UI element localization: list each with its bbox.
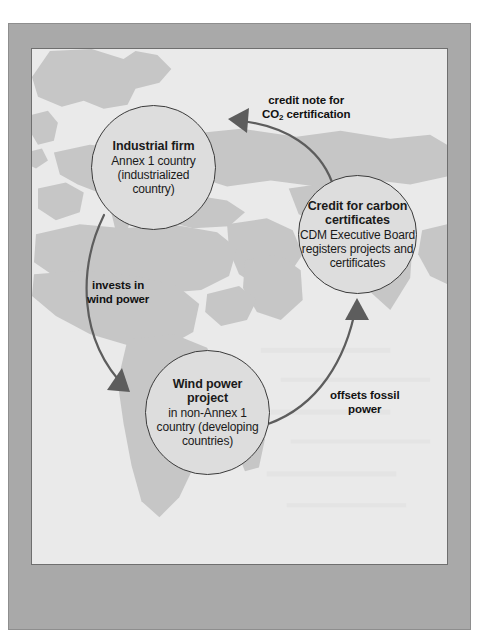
node-wind-power-project[interactable]: Wind power project in non-Annex 1 countr… <box>145 350 270 475</box>
edge-label-credit-note: credit note for CO2 certification <box>262 94 350 124</box>
node-credit-sub-line-2: registers projects and <box>300 242 415 256</box>
edge-label-invests-in-wind-power: invests in wind power <box>87 279 149 306</box>
diagram-stage: Industrial firm Annex 1 country (industr… <box>0 0 480 637</box>
edge-label-credit-note-line-1: credit note for <box>262 94 350 108</box>
world-map-background <box>32 49 447 564</box>
edge-label-offsets-fossil-power: offsets fossil power <box>330 389 400 416</box>
node-industrial-firm-subtitle: Annex 1 country (industrialized country) <box>111 154 195 197</box>
node-credit-title: Credit for carbon certificates <box>308 199 408 227</box>
co2-suffix: certification <box>283 108 350 120</box>
edge-label-invests-line-2: wind power <box>87 293 149 307</box>
node-credit-for-carbon-certificates[interactable]: Credit for carbon certificates CDM Execu… <box>298 175 417 294</box>
node-credit-sub-line-3: certificates <box>300 256 415 270</box>
node-wind-sub-line-3: countries) <box>157 434 259 448</box>
node-wind-title-line-2: project <box>173 391 243 405</box>
node-wind-title: Wind power project <box>173 377 243 405</box>
map-panel <box>31 48 448 565</box>
node-industrial-firm-title: Industrial firm <box>113 139 195 153</box>
edge-label-credit-note-line-2: CO2 certification <box>262 108 350 125</box>
node-credit-title-line-2: certificates <box>308 213 408 227</box>
node-wind-sub-line-1: in non-Annex 1 <box>157 406 259 420</box>
node-credit-subtitle: CDM Executive Board registers projects a… <box>300 228 415 271</box>
co2-prefix: CO <box>262 108 279 120</box>
edge-label-offsets-line-1: offsets fossil <box>330 389 400 403</box>
node-wind-title-line-1: Wind power <box>173 377 243 391</box>
node-wind-subtitle: in non-Annex 1 country (developing count… <box>157 406 259 449</box>
node-industrial-firm-sub-line-3: country) <box>111 182 195 196</box>
node-wind-sub-line-2: country (developing <box>157 420 259 434</box>
node-industrial-firm-sub-line-2: (industrialized <box>111 168 195 182</box>
edge-label-offsets-line-2: power <box>330 403 400 417</box>
edge-label-invests-line-1: invests in <box>87 279 149 293</box>
node-industrial-firm[interactable]: Industrial firm Annex 1 country (industr… <box>91 105 216 230</box>
node-credit-title-line-1: Credit for carbon <box>308 199 408 213</box>
node-credit-sub-line-1: CDM Executive Board <box>300 228 415 242</box>
node-industrial-firm-sub-line-1: Annex 1 country <box>111 154 195 168</box>
